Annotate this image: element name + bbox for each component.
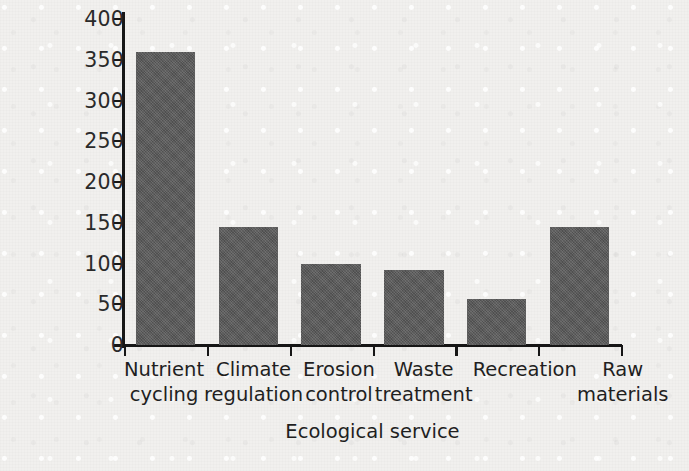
- bar: [301, 264, 360, 346]
- x-axis-tick-label-line: Recreation: [473, 357, 577, 382]
- x-axis-tick-mark: [538, 345, 540, 356]
- x-axis-tick-label: Erosioncontrol: [303, 357, 375, 407]
- x-axis-tick-label: Rawmaterials: [577, 357, 669, 407]
- bar-chart-figure: Worth (billions of dollars) 050100150200…: [0, 0, 689, 471]
- x-axis-title: Ecological service: [124, 420, 621, 443]
- bar: [467, 299, 526, 345]
- y-axis-tick-label: 350: [84, 48, 124, 72]
- bar: [550, 227, 609, 345]
- x-axis-tick-label: Wastetreatment: [375, 357, 473, 407]
- x-axis-tick-mark: [373, 345, 375, 356]
- x-axis-tick-labels: NutrientcyclingClimateregulationErosionc…: [124, 357, 621, 407]
- x-axis-tick-label-line: control: [303, 382, 375, 407]
- y-axis-tick-label: 50: [98, 292, 125, 316]
- x-axis-tick-label-line: Nutrient: [124, 357, 204, 382]
- x-axis-tick-mark: [621, 345, 623, 356]
- y-axis-tick-label: 400: [84, 7, 124, 31]
- x-axis-tick-label: Climateregulation: [204, 357, 303, 407]
- x-axis-tick-label: Recreation: [473, 357, 577, 407]
- y-axis-tick-label: 200: [84, 170, 124, 194]
- x-axis-tick-label-line: Raw: [577, 357, 669, 382]
- x-axis-tick-label-line: cycling: [124, 382, 204, 407]
- x-axis-tick-label: Nutrientcycling: [124, 357, 204, 407]
- x-axis-tick-label-line: materials: [577, 382, 669, 407]
- bar: [219, 227, 278, 345]
- x-axis-tick-mark: [455, 345, 457, 356]
- x-axis-tick-label-line: Climate: [204, 357, 303, 382]
- x-axis-tick-label-line: Erosion: [303, 357, 375, 382]
- x-axis-tick-mark: [207, 345, 209, 356]
- x-axis-tick-label-line: treatment: [375, 382, 473, 407]
- y-axis-tick-label: 250: [84, 129, 124, 153]
- y-axis-tick-label: 0: [111, 333, 124, 357]
- bar: [384, 270, 443, 345]
- y-axis-tick-label: 100: [84, 252, 124, 276]
- x-axis-tick-label-line: Waste: [375, 357, 473, 382]
- plot-area: Worth (billions of dollars) 050100150200…: [124, 19, 621, 345]
- bar: [136, 52, 195, 345]
- y-axis-tick-label: 300: [84, 89, 124, 113]
- y-axis-tick-label: 150: [84, 211, 124, 235]
- x-axis-tick-label-line: regulation: [204, 382, 303, 407]
- x-axis-tick-mark: [290, 345, 292, 356]
- x-axis-tick-mark: [124, 345, 126, 356]
